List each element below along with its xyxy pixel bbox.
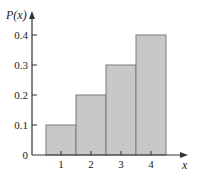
y-axis-title: P(x) [5, 8, 27, 22]
y-tick-label: 0.2 [14, 89, 28, 101]
y-ticks-group: 00.10.20.30.4 [14, 29, 37, 161]
x-tick-label: 4 [148, 158, 154, 170]
bar-4 [136, 35, 166, 155]
bar-1 [46, 125, 76, 155]
y-tick-label: 0 [23, 149, 29, 161]
y-tick-label: 0.4 [14, 29, 28, 41]
probability-histogram: 1234 00.10.20.30.4 P(x) x [0, 0, 203, 178]
bar-2 [76, 95, 106, 155]
bars-group [46, 35, 166, 155]
y-tick-label: 0.3 [14, 59, 28, 71]
y-axis-arrow-icon [29, 11, 35, 19]
y-tick-label: 0.1 [14, 119, 28, 131]
x-tick-label: 2 [88, 158, 94, 170]
x-tick-label: 1 [58, 158, 64, 170]
bar-3 [106, 65, 136, 155]
x-axis-title: x [181, 158, 188, 172]
x-tick-label: 3 [118, 158, 124, 170]
